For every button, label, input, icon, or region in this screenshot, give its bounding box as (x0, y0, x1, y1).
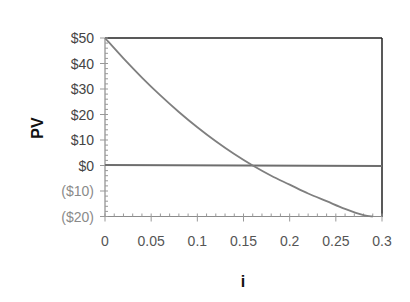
x-tick-label: 0.05 (138, 233, 165, 249)
pv-curve (105, 38, 373, 217)
axes (100, 38, 382, 222)
y-tick-label: $0 (78, 158, 94, 174)
y-axis-title: PV (29, 117, 46, 139)
zero-line (105, 165, 382, 166)
x-tick-labels: 00.050.10.150.20.250.3 (101, 233, 392, 249)
x-tick-label: 0.2 (280, 233, 300, 249)
y-tick-label: $40 (71, 56, 95, 72)
plot-frame (105, 38, 382, 217)
y-tick-label: ($10) (61, 183, 94, 199)
x-tick-label: 0.15 (230, 233, 257, 249)
y-tick-label: $10 (71, 132, 95, 148)
y-tick-label: $30 (71, 81, 95, 97)
x-tick-label: 0.1 (188, 233, 208, 249)
x-tick-label: 0.3 (372, 233, 392, 249)
y-tick-label: ($20) (61, 209, 94, 225)
x-tick-label: 0.25 (322, 233, 349, 249)
y-tick-label: $20 (71, 107, 95, 123)
pv-chart: $50$40$30$20$10$0($10)($20) 00.050.10.15… (0, 0, 410, 302)
y-tick-labels: $50$40$30$20$10$0($10)($20) (61, 30, 94, 225)
y-tick-label: $50 (71, 30, 95, 46)
x-tick-label: 0 (101, 233, 109, 249)
x-axis-title: i (241, 273, 245, 290)
